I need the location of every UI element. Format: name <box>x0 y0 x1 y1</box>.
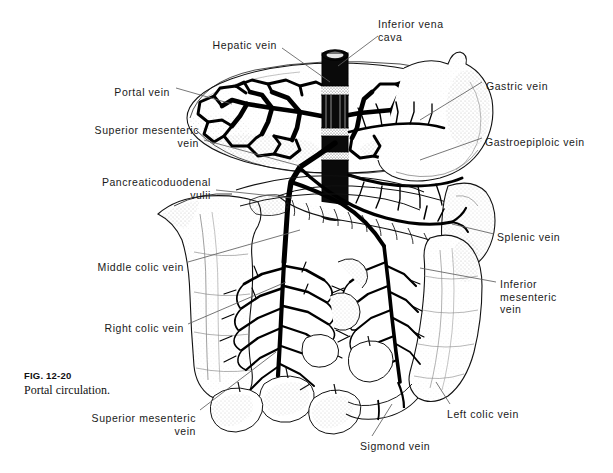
figure-caption: FIG. 12-20 Portal circulation. <box>24 370 110 398</box>
label-right-colic-vein: Right colic vein <box>105 322 184 335</box>
label-gastric-vein: Gastric vein <box>486 80 548 93</box>
label-pancreaticoduodenal-veins: Pancreaticoduodenal vulii <box>102 176 211 201</box>
label-splenic-vein: Splenic vein <box>497 231 560 244</box>
label-sigmond-vein: Sigmond vein <box>360 440 430 453</box>
label-superior-mesenteric-vein-bottom: Superior mesenteric vein <box>92 412 196 437</box>
hepatic-flexure-detail <box>250 195 289 216</box>
label-inferior-mesenteric-vein: Inferior mesenteric vein <box>500 278 557 316</box>
label-hepatic-vein: Hepatic vein <box>213 39 277 52</box>
figure-page: Inferior vena cavaHepatic veinPortal vei… <box>0 0 613 473</box>
duodenum-loop <box>330 259 368 330</box>
label-superior-mesenteric-vein-top: Superior mesenteric vein <box>95 124 199 149</box>
label-gastroepiploic-vein: Gastroepiploic vein <box>485 136 585 149</box>
label-inferior-vena-cava: Inferior vena cava <box>378 18 444 43</box>
label-left-colic-vein: Left colic vein <box>447 408 519 421</box>
label-portal-vein: Portal vein <box>114 86 170 99</box>
figure-number: FIG. 12-20 <box>24 370 110 381</box>
figure-title: Portal circulation. <box>24 383 110 398</box>
label-middle-colic-vein: Middle colic vein <box>98 261 184 274</box>
descending-colon <box>409 235 482 401</box>
